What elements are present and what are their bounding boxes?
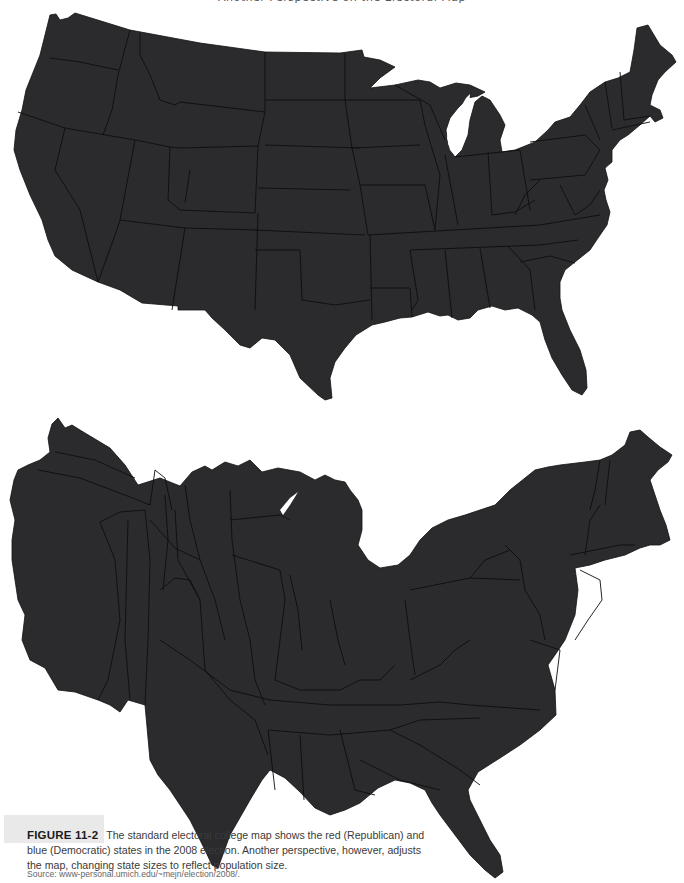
- population-cartogram: [0, 410, 684, 883]
- source-line: Source: www-personal.umich.edu/~mejn/ele…: [27, 869, 240, 879]
- figure-caption: FIGURE 11-2The standard electoral colleg…: [27, 828, 427, 872]
- standard-electoral-map: [0, 0, 684, 410]
- cartogram-landmass: [10, 418, 672, 878]
- figure-label: FIGURE 11-2: [27, 829, 98, 841]
